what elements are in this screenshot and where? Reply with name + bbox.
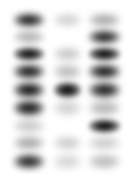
band-1-3: [14, 47, 44, 61]
band-texture: [14, 82, 44, 98]
lane-3: [89, 0, 120, 174]
band-texture: [89, 30, 120, 44]
band-texture: [14, 154, 44, 169]
band-3-3: [89, 47, 120, 61]
band-texture: [89, 47, 120, 61]
band-texture: [54, 82, 81, 98]
band-texture: [14, 13, 44, 27]
band-texture: [54, 64, 81, 79]
band-2-5: [54, 82, 81, 98]
band-1-7: [14, 119, 44, 133]
band-1-1: [14, 13, 44, 27]
band-3-1: [89, 13, 120, 27]
band-texture: [54, 47, 81, 61]
band-3-6: [89, 100, 120, 116]
band-2-6: [54, 100, 81, 116]
lane-2: [54, 0, 81, 174]
band-texture: [14, 136, 44, 150]
band-texture: [89, 13, 120, 27]
band-texture: [89, 136, 120, 150]
band-1-4: [14, 64, 44, 79]
band-texture: [14, 100, 44, 116]
band-1-5: [14, 82, 44, 98]
band-2-1: [54, 13, 81, 27]
lane-1: [14, 0, 44, 174]
band-texture: [89, 100, 120, 116]
band-texture: [14, 64, 44, 79]
band-texture: [89, 119, 120, 133]
band-3-7: [89, 119, 120, 133]
band-texture: [14, 47, 44, 61]
band-texture: [54, 100, 81, 116]
gel-blot-figure: [0, 0, 132, 174]
band-texture: [89, 64, 120, 79]
band-1-9: [14, 154, 44, 169]
band-texture: [54, 136, 81, 150]
band-texture: [89, 154, 120, 169]
band-texture: [54, 13, 81, 27]
band-texture: [14, 30, 44, 44]
band-2-4: [54, 64, 81, 79]
band-3-2: [89, 30, 120, 44]
band-3-4: [89, 64, 120, 79]
band-texture: [89, 82, 120, 98]
band-1-8: [14, 136, 44, 150]
band-3-5: [89, 82, 120, 98]
band-texture: [54, 154, 81, 169]
band-2-8: [54, 136, 81, 150]
band-2-3: [54, 47, 81, 61]
band-texture: [14, 119, 44, 133]
band-1-2: [14, 30, 44, 44]
band-1-6: [14, 100, 44, 116]
band-2-9: [54, 154, 81, 169]
band-3-8: [89, 136, 120, 150]
band-3-9: [89, 154, 120, 169]
